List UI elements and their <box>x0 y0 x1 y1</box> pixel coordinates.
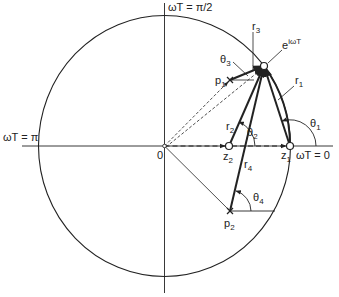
axis-label-left: ωT = π <box>3 131 39 143</box>
theta3-leader <box>233 62 248 76</box>
p2-label: p2 <box>224 217 235 232</box>
p1-label: p1 <box>215 74 226 89</box>
axis-label-top: ωT = π/2 <box>168 1 212 13</box>
axis-label-right: ωT = 0 <box>296 149 330 161</box>
z2-point <box>226 143 233 150</box>
origin-point <box>163 144 167 148</box>
z2-label: z2 <box>223 150 234 165</box>
r2-label: r2 <box>226 120 235 135</box>
origin-label: 0 <box>157 149 163 161</box>
e-iwt-point <box>261 63 268 70</box>
r1-label: r1 <box>295 74 304 89</box>
e-iwt-label: eiωT <box>282 37 301 51</box>
origin-to-p1-vector <box>165 82 229 146</box>
e-leader <box>268 50 282 63</box>
theta3-label: θ3 <box>220 53 231 68</box>
r4-vector <box>230 66 264 211</box>
theta1-label: θ1 <box>310 117 321 132</box>
unit-circle-diagram: ωT = π/2 ωT = π ωT = 0 0 eiωT p1 p2 z1 z… <box>0 0 339 297</box>
theta2-label: θ2 <box>247 126 258 141</box>
r4-label: r4 <box>244 158 253 173</box>
theta4-arc <box>236 191 251 211</box>
theta4-label: θ4 <box>253 191 264 206</box>
z1-point <box>287 143 294 150</box>
origin-to-p2-line <box>165 146 231 211</box>
r1-vector <box>264 66 290 146</box>
